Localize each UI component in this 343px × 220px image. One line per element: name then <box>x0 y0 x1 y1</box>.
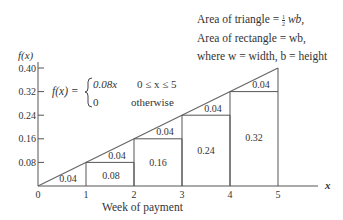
x-tick-0: 0 <box>36 189 41 200</box>
curly-brace <box>85 78 92 107</box>
formula-case1-expr: 0.08x <box>93 78 117 90</box>
y-tick-labels: 0.40 0.32 0.24 0.16 0.08 <box>19 63 37 169</box>
triangle-label-2: 0.04 <box>108 150 126 161</box>
diagram-canvas: 0.40 0.32 0.24 0.16 0.08 f(x) 0 1 2 3 4 … <box>0 0 343 220</box>
piecewise-formula: f(x) = 0.08x 0 ≤ x ≤ 5 0 otherwise <box>52 78 177 108</box>
x-tick-labels: 0 1 2 3 4 5 <box>36 189 281 200</box>
triangle-label-4: 0.04 <box>204 103 222 114</box>
x-tick-2: 2 <box>132 189 137 200</box>
y-tick-0.40: 0.40 <box>19 63 37 74</box>
y-ticks <box>38 68 44 162</box>
formula-case2-cond: otherwise <box>131 96 174 108</box>
rectangle-label-3: 0.24 <box>197 145 215 156</box>
triangle-label-5: 0.04 <box>252 79 270 90</box>
x-tick-3: 3 <box>180 189 185 200</box>
formula-case1-cond: 0 ≤ x ≤ 5 <box>137 78 177 90</box>
rectangle-label-4: 0.32 <box>245 132 263 143</box>
x-tick-4: 4 <box>228 189 233 200</box>
y-axis-label: f(x) <box>18 49 34 62</box>
x-tick-5: 5 <box>276 189 281 200</box>
y-tick-0.32: 0.32 <box>19 86 37 97</box>
formula-lhs: f(x) = <box>52 85 79 98</box>
x-axis-label: x <box>324 179 331 191</box>
x-axis-title: Week of payment <box>102 201 184 214</box>
y-tick-0.08: 0.08 <box>19 157 37 168</box>
y-tick-0.16: 0.16 <box>19 133 37 144</box>
rectangle-label-1: 0.08 <box>102 170 120 181</box>
formula-case2-expr: 0 <box>93 96 99 108</box>
triangle-label-3: 0.04 <box>156 126 174 137</box>
rectangle-label-2: 0.16 <box>149 157 167 168</box>
x-tick-1: 1 <box>84 189 89 200</box>
y-tick-0.24: 0.24 <box>19 110 37 121</box>
triangle-area-labels: 0.04 0.04 0.04 0.04 0.04 <box>59 79 270 184</box>
triangle-label-1: 0.04 <box>59 173 77 184</box>
